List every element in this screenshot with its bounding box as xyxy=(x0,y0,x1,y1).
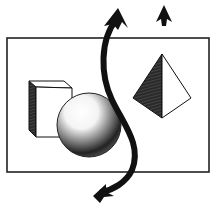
cut-off-caption xyxy=(0,196,220,204)
up-arrow-icon xyxy=(156,5,172,26)
pyramid-shape xyxy=(133,54,191,118)
sketch-diagram xyxy=(0,0,220,204)
